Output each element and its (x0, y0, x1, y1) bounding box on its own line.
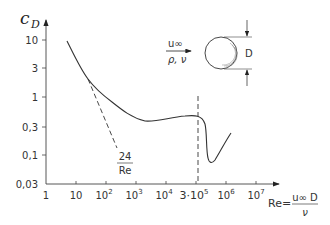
stokes-line (88, 79, 117, 148)
stokes-numerator: 24 (119, 151, 132, 162)
x-tick-label: 106 (217, 188, 235, 201)
x-tick-label: 103 (125, 188, 142, 201)
cylinder-icon (205, 37, 237, 69)
y-tick-label: 1 (32, 92, 38, 103)
x-formula-numerator: u∞ D (292, 192, 318, 203)
y-tick-label: 10 (25, 35, 38, 46)
drag-coefficient-chart: 10 3 1 0,3 0,1 0,03 c D 1 10 102 103 104… (0, 0, 330, 225)
y-tick-label: 0,03 (16, 179, 38, 190)
y-tick-label: 3 (32, 63, 38, 74)
y-axis-label: c (20, 8, 30, 28)
x-tick-label: 104 (155, 188, 173, 201)
x-tick-label: 1 (43, 190, 49, 201)
x-tick-label: 107 (247, 188, 264, 201)
stokes-denominator: Re (119, 165, 132, 176)
x-tick-label: 3·105 (180, 188, 209, 202)
diameter-label: D (245, 48, 253, 59)
flow-inset: u∞ ρ, ν D (166, 20, 253, 86)
x-axis: 1 10 102 103 104 3·105 106 107 Re= u∞ D … (43, 181, 318, 218)
x-formula-denominator: ν (302, 207, 308, 218)
y-tick-label: 0,1 (22, 150, 38, 161)
y-tick-label: 0,3 (22, 122, 38, 133)
flow-velocity-label: u∞ (168, 38, 183, 49)
x-tick-label: 102 (95, 188, 112, 201)
y-axis: 10 3 1 0,3 0,1 0,03 c D (16, 8, 46, 190)
x-axis-label: Re= (268, 197, 291, 210)
flow-props-label: ρ, ν (168, 54, 187, 65)
y-axis-subscript: D (30, 18, 40, 31)
x-tick-label: 10 (70, 190, 83, 201)
